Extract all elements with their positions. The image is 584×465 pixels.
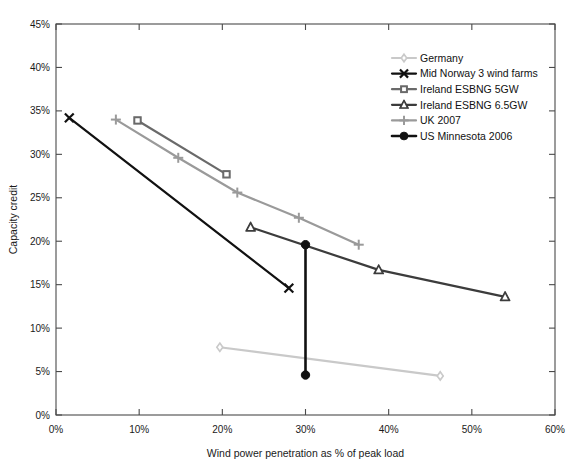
- y-tick-label: 0%: [36, 410, 51, 421]
- x-axis-title: Wind power penetration as % of peak load: [207, 447, 404, 459]
- x-tick-label: 20%: [212, 424, 232, 435]
- y-tick-label: 35%: [30, 105, 50, 116]
- y-tick-label: 5%: [36, 366, 51, 377]
- x-tick-label: 30%: [295, 424, 315, 435]
- marker-circle: [400, 132, 408, 140]
- y-tick-label: 30%: [30, 149, 50, 160]
- chart-canvas: 0%10%20%30%40%50%60%0%5%10%15%20%25%30%3…: [0, 0, 584, 465]
- legend-label: UK 2007: [420, 114, 461, 126]
- y-axis-title: Capacity credit: [7, 185, 19, 255]
- x-tick-label: 0%: [49, 424, 64, 435]
- y-tick-label: 15%: [30, 279, 50, 290]
- legend-label: Mid Norway 3 wind farms: [420, 67, 538, 79]
- y-tick-label: 40%: [30, 62, 50, 73]
- y-tick-label: 45%: [30, 19, 50, 30]
- legend-label: Ireland ESBNG 6.5GW: [420, 99, 527, 111]
- marker-circle: [301, 240, 309, 248]
- marker-square-inner: [135, 118, 139, 122]
- y-tick-label: 25%: [30, 192, 50, 203]
- legend-label: US Minnesota 2006: [420, 130, 512, 142]
- x-tick-label: 50%: [462, 424, 482, 435]
- legend-label: Germany: [420, 52, 464, 64]
- y-tick-label: 20%: [30, 236, 50, 247]
- marker-square-inner: [224, 172, 228, 176]
- y-tick-label: 10%: [30, 323, 50, 334]
- capacity-credit-chart: 0%10%20%30%40%50%60%0%5%10%15%20%25%30%3…: [0, 0, 584, 465]
- marker-circle: [301, 371, 309, 379]
- x-tick-label: 10%: [129, 424, 149, 435]
- x-tick-label: 40%: [379, 424, 399, 435]
- legend-label: Ireland ESBNG 5GW: [420, 83, 519, 95]
- x-tick-label: 60%: [545, 424, 565, 435]
- marker-square-inner: [402, 87, 406, 91]
